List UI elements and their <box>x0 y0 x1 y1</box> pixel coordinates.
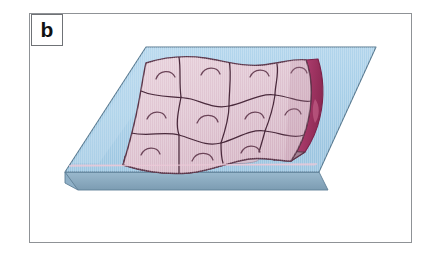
figure-panel: b <box>0 0 440 256</box>
panel-label-box: b <box>31 14 63 46</box>
cell-sheet-illustration <box>29 13 412 243</box>
illustration-svg <box>29 13 412 243</box>
substrate-front-face <box>65 172 328 190</box>
cell-sheet-top <box>123 57 313 174</box>
panel-label-letter: b <box>41 19 54 40</box>
sheet-top-texture <box>123 57 311 174</box>
